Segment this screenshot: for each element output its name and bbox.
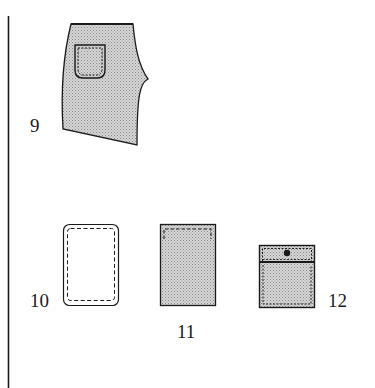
pocket-flap-button-icon — [260, 246, 315, 308]
pocket-shaded-icon — [161, 225, 216, 306]
button-icon — [284, 250, 290, 256]
item-label-12: 12 — [328, 291, 347, 310]
item-label-11: 11 — [177, 322, 195, 341]
pocket-outline-icon — [64, 225, 119, 306]
shorts-panel-icon — [62, 24, 148, 145]
item-label-10: 10 — [30, 291, 49, 310]
shorts-pocket-icon — [75, 45, 105, 78]
item-label-9: 9 — [30, 116, 40, 135]
